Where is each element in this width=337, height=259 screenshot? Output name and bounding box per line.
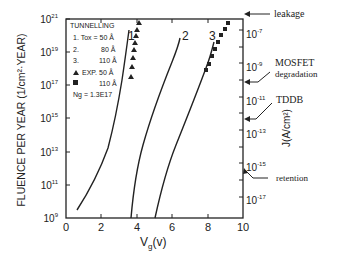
- svg-text:3.: 3.: [73, 57, 79, 64]
- svg-text:4: 4: [134, 221, 140, 233]
- left-y-tick-labels: 1021 1019 1017 1015 1013 1011 109: [40, 13, 58, 224]
- y-axis-label-right: J(A/cm²): [281, 109, 292, 147]
- svg-text:TDDB: TDDB: [276, 94, 304, 105]
- svg-text:TUNNELLING: TUNNELLING: [70, 22, 114, 29]
- x-tick-labels: 0 2 4 6 8 10: [63, 221, 249, 233]
- svg-text:80 Å: 80 Å: [101, 45, 116, 53]
- svg-text:8: 8: [205, 221, 211, 233]
- svg-text:1019: 1019: [40, 46, 58, 58]
- svg-text:10-7: 10-7: [246, 28, 263, 40]
- svg-text:1. Tox = 50 Å: 1. Tox = 50 Å: [73, 33, 114, 41]
- svg-text:10-11: 10-11: [246, 95, 266, 107]
- svg-text:Ng = 1.3E17: Ng = 1.3E17: [73, 91, 112, 99]
- svg-text:10-15: 10-15: [246, 161, 266, 173]
- svg-text:leakage: leakage: [274, 8, 305, 19]
- svg-text:10-9: 10-9: [246, 61, 263, 73]
- svg-text:6: 6: [169, 221, 175, 233]
- chart: 1021 1019 1017 1015 1013 1011 109 10-7 1…: [0, 0, 337, 259]
- svg-text:1015: 1015: [40, 112, 58, 124]
- svg-text:retention: retention: [276, 173, 308, 183]
- legend: TUNNELLING 1. Tox = 50 Å 2. 80 Å 3. 110 …: [70, 22, 117, 99]
- svg-text:degradation: degradation: [275, 69, 318, 79]
- x-ticks: [101, 19, 208, 218]
- svg-text:109: 109: [44, 212, 59, 224]
- svg-text:2.: 2.: [73, 46, 79, 53]
- svg-text:10: 10: [237, 221, 249, 233]
- svg-text:1021: 1021: [40, 13, 58, 25]
- svg-text:EXP. 50 Å: EXP. 50 Å: [82, 68, 114, 76]
- x-axis-label: Vg(v): [140, 235, 166, 251]
- svg-text:1013: 1013: [40, 146, 58, 158]
- svg-text:10-13: 10-13: [246, 128, 266, 140]
- svg-text:110 Å: 110 Å: [99, 56, 117, 64]
- exp-110A-markers: [204, 21, 230, 72]
- curve-3-label: 3: [209, 29, 216, 43]
- svg-text:0: 0: [63, 221, 69, 233]
- svg-text:1017: 1017: [40, 79, 58, 91]
- curve-2-label: 2: [182, 29, 189, 43]
- svg-text:2: 2: [98, 221, 104, 233]
- y-axis-label: FLUENCE PER YEAR (1/cm²·YEAR): [15, 33, 27, 206]
- svg-text:MOSFET: MOSFET: [275, 57, 314, 68]
- curve-1-label: 1: [128, 29, 135, 43]
- curve-2: [131, 38, 180, 218]
- svg-text:110 Å: 110 Å: [99, 79, 117, 87]
- svg-text:10-17: 10-17: [246, 194, 266, 206]
- svg-text:1011: 1011: [41, 179, 59, 191]
